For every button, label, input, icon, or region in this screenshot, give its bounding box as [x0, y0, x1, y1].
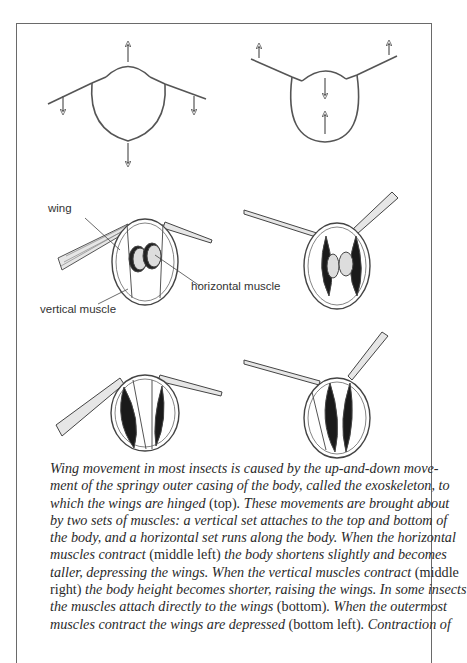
caption-line: muscles contract the wings are depressed…: [50, 616, 402, 633]
caption-text-italic: by two sets of muscles: a vertical set a…: [50, 512, 447, 528]
caption-line: which the wings are hinged (top). These …: [50, 495, 402, 512]
caption-text-italic: . When the outermost: [326, 598, 447, 614]
caption-text-roman: (bottom): [277, 598, 327, 614]
caption-text-italic: muscles contract the wings are depressed: [50, 616, 289, 632]
caption-text-italic: the muscles attach directly to the wings: [50, 598, 277, 614]
caption-text-italic: taller, depressing the wings. When the v…: [50, 564, 415, 580]
caption-text-italic: the body, and a horizontal set runs alon…: [50, 529, 456, 545]
caption-text-italic: ment of the springy outer casing of the …: [50, 477, 450, 493]
figure-caption: Wing movement in most insects is caused …: [50, 460, 402, 633]
caption-text-italic: Wing movement in most insects is caused …: [50, 460, 439, 476]
vertical-muscle-leader-line: [98, 289, 128, 304]
caption-text-italic: the body shortens slightly and becomes: [221, 546, 447, 562]
caption-line: ment of the springy outer casing of the …: [50, 477, 402, 494]
label-wing: wing: [48, 202, 72, 214]
caption-text-italic: which the wings are hinged: [50, 495, 209, 511]
caption-text-roman: (middle: [415, 564, 459, 580]
caption-text-italic: muscles contract: [50, 546, 149, 562]
panel-top-left: [48, 44, 206, 164]
panel-top-right: [251, 43, 397, 142]
panel-bottom-right: [244, 332, 388, 458]
caption-text-italic: . These movements are brought about: [237, 495, 450, 511]
caption-text-italic: the body height becomes shorter, raising…: [82, 581, 467, 597]
caption-text-roman: (middle left): [149, 546, 220, 562]
caption-text-italic: . Contraction of: [361, 616, 451, 632]
caption-text-roman: (top): [209, 495, 237, 511]
caption-line: by two sets of muscles: a vertical set a…: [50, 512, 402, 529]
caption-line: Wing movement in most insects is caused …: [50, 460, 402, 477]
label-horizontal-muscle: horizontal muscle: [191, 280, 280, 292]
caption-line: taller, depressing the wings. When the v…: [50, 564, 402, 581]
caption-line: right) the body height becomes shorter, …: [50, 581, 402, 598]
caption-text-roman: right): [50, 581, 82, 597]
panel-middle-left: [58, 218, 212, 305]
caption-line: muscles contract (middle left) the body …: [50, 546, 402, 563]
caption-line: the body, and a horizontal set runs alon…: [50, 529, 402, 546]
panel-bottom-left: [56, 375, 222, 451]
caption-line: the muscles attach directly to the wings…: [50, 598, 402, 615]
caption-text-roman: (bottom left): [289, 616, 361, 632]
label-vertical-muscle: vertical muscle: [40, 303, 116, 315]
